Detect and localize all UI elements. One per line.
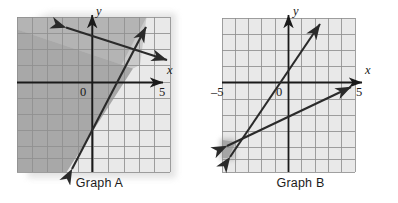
graph-a-caption: Graph A [0,176,199,190]
graph-b-x-tick-neg5-label: –5 [210,85,224,99]
graph-a-y-axis-label: y [94,4,102,18]
graph-b-y-axis-label: y [291,4,299,18]
graph-a-plot: 0 x y 5 [0,0,199,185]
figure-two-graphs: 0 x y 5 Graph A [0,0,398,203]
graph-b-plot: 0 x y –5 5 [199,0,398,185]
graph-b-caption: Graph B [199,176,398,190]
graph-b-x-axis-label: x [364,63,371,77]
graph-a-x-tick-5-label: 5 [159,85,165,99]
graph-b-panel: 0 x y –5 5 Graph B [199,0,398,203]
graph-a-origin-label: 0 [80,85,86,99]
graph-a-panel: 0 x y 5 Graph A [0,0,199,203]
graph-a-x-axis-label: x [166,63,173,77]
graph-b-x-tick-5-label: 5 [356,85,362,99]
graph-b-origin-label: 0 [276,85,282,99]
